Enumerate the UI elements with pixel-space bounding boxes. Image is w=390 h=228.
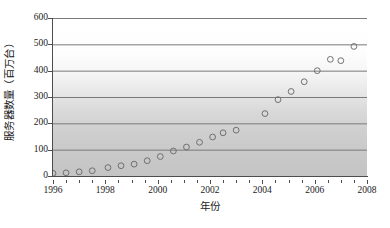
plot-svg (53, 18, 367, 176)
data-point-markers (53, 44, 357, 176)
x-tick-label: 2002 (201, 186, 220, 196)
data-point (131, 161, 137, 167)
data-point (76, 169, 82, 175)
x-tick-mark-minor (79, 180, 80, 183)
data-point (89, 168, 95, 174)
x-tick-label: 1998 (96, 186, 115, 196)
y-tick-label: 200 (22, 118, 48, 128)
x-tick-mark-major (262, 180, 263, 184)
gridlines (53, 19, 367, 151)
data-point (157, 154, 163, 160)
server-count-scatter-chart: 服务器数量（百万台） 0100200300400500600 199619982… (0, 0, 390, 228)
x-tick-mark-minor (118, 180, 119, 183)
x-tick-mark-minor (354, 180, 355, 183)
y-tick-label: 300 (22, 92, 48, 102)
x-tick-mark-minor (223, 180, 224, 183)
x-tick-mark-major (105, 180, 106, 184)
x-tick-label: 1996 (44, 186, 63, 196)
x-tick-label: 2004 (253, 186, 272, 196)
x-tick-label: 2008 (358, 186, 377, 196)
y-axis-title-text: 服务器数量（百万台） (1, 38, 16, 141)
x-axis-tick-labels: 1996199820002002200420062008 (0, 180, 390, 196)
x-tick-mark-minor (249, 180, 250, 183)
data-point (338, 58, 344, 64)
x-tick-mark-major (210, 180, 211, 184)
data-point (105, 165, 111, 171)
data-point (301, 79, 307, 85)
data-point (233, 127, 239, 133)
x-tick-mark-major (315, 180, 316, 184)
data-point (314, 68, 320, 74)
x-tick-label: 2000 (148, 186, 167, 196)
y-axis-title: 服务器数量（百万台） (0, 0, 16, 178)
x-tick-mark-minor (132, 180, 133, 183)
x-tick-mark-minor (302, 180, 303, 183)
x-axis-title: 年份 (53, 198, 367, 213)
x-tick-mark-minor (145, 180, 146, 183)
x-tick-mark-minor (236, 180, 237, 183)
x-tick-mark-minor (197, 180, 198, 183)
x-tick-mark-major (367, 180, 368, 184)
data-point (262, 111, 268, 117)
y-tick-label: 600 (22, 13, 48, 23)
y-tick-label: 100 (22, 145, 48, 155)
x-tick-mark-minor (275, 180, 276, 183)
x-tick-mark-minor (66, 180, 67, 183)
data-point (118, 163, 124, 169)
x-tick-mark-minor (171, 180, 172, 183)
data-point (144, 158, 150, 164)
x-tick-mark-major (53, 180, 54, 184)
x-tick-mark-minor (92, 180, 93, 183)
x-tick-label: 2006 (305, 186, 324, 196)
data-point (210, 134, 216, 140)
y-tick-label: 400 (22, 66, 48, 76)
x-tick-mark-minor (184, 180, 185, 183)
data-point (63, 170, 69, 176)
x-tick-mark-minor (289, 180, 290, 183)
x-axis-line (52, 176, 368, 177)
data-point (184, 144, 190, 150)
x-tick-mark-minor (328, 180, 329, 183)
x-tick-mark-major (158, 180, 159, 184)
data-point (327, 56, 333, 62)
y-tick-label: 500 (22, 39, 48, 49)
data-point (220, 130, 226, 136)
plot-area (53, 18, 367, 176)
x-tick-mark-minor (341, 180, 342, 183)
data-point (170, 148, 176, 154)
data-point (197, 139, 203, 145)
data-point (288, 89, 294, 95)
data-point (53, 170, 56, 176)
